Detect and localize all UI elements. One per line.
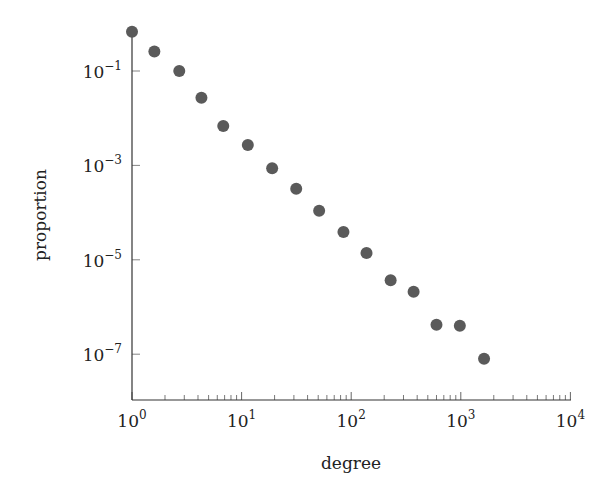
- y-tick-label: 10−3: [83, 153, 122, 176]
- x-axis-minor-ticks: [165, 395, 565, 400]
- y-tick-label: 10−5: [83, 248, 122, 271]
- data-point: [266, 162, 278, 174]
- y-axis-ticks: 10−110−310−510−7: [83, 59, 140, 365]
- data-point: [148, 45, 160, 57]
- x-tick-label: 101: [227, 408, 256, 431]
- y-tick-label: 10−1: [83, 59, 122, 82]
- data-point: [430, 319, 442, 331]
- data-point: [313, 205, 325, 217]
- x-axis-title: degree: [321, 453, 381, 473]
- y-axis-title: proportion: [30, 169, 50, 261]
- x-tick-label: 100: [117, 408, 146, 431]
- data-point: [454, 320, 466, 332]
- x-tick-label: 102: [337, 408, 366, 431]
- data-point: [385, 274, 397, 286]
- data-point: [408, 286, 420, 298]
- data-point: [217, 120, 229, 132]
- x-tick-label: 103: [446, 408, 475, 431]
- y-tick-label: 10−7: [83, 342, 122, 365]
- x-tick-label: 104: [556, 408, 586, 431]
- data-point: [242, 139, 254, 151]
- data-point: [361, 247, 373, 259]
- data-point: [195, 92, 207, 104]
- data-point: [173, 65, 185, 77]
- x-axis-ticks: 100101102103104: [117, 392, 585, 431]
- data-points: [126, 26, 490, 365]
- degree-distribution-chart: 10−110−310−510−7 100101102103104 degree …: [0, 0, 616, 498]
- data-point: [478, 353, 490, 365]
- data-point: [290, 183, 302, 195]
- data-point: [337, 226, 349, 238]
- data-point: [126, 26, 138, 38]
